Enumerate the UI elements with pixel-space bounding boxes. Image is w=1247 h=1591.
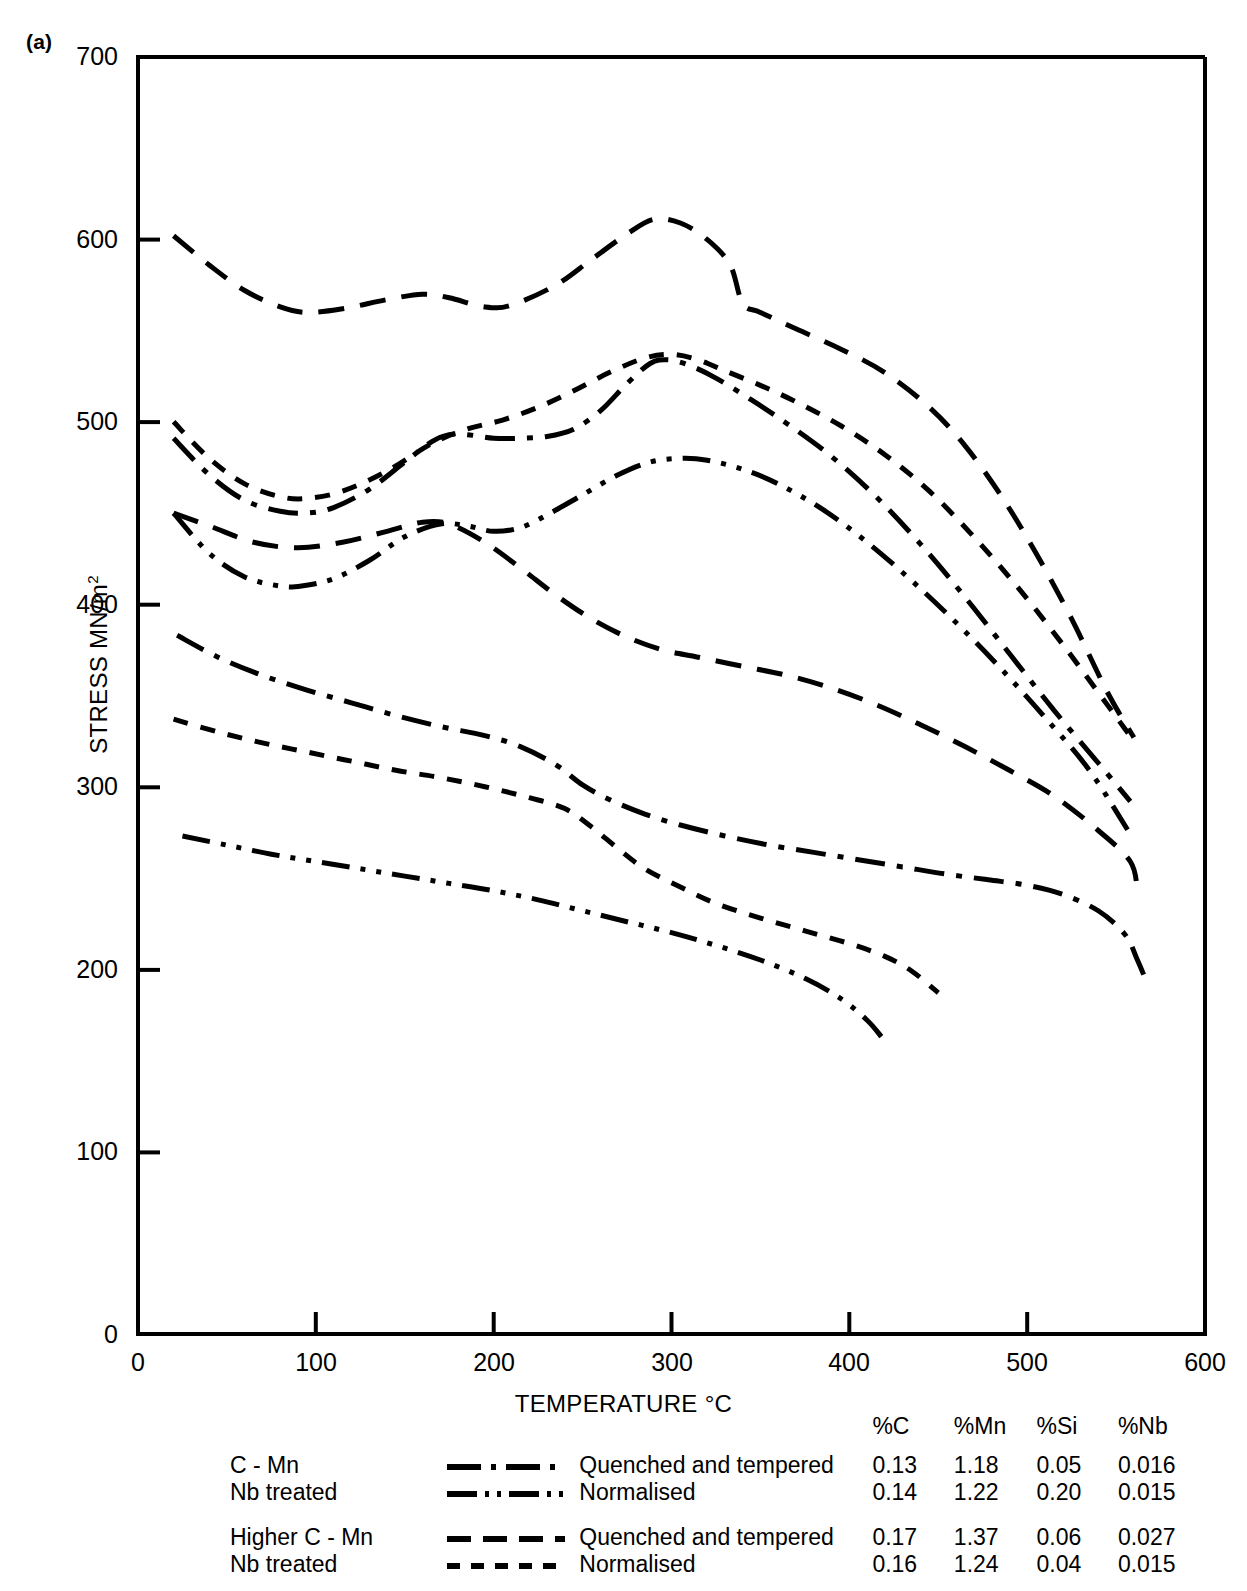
- legend-row[interactable]: Nb treated Normalised 0.16 1.24 0.04 0.0…: [230, 1551, 1220, 1578]
- legend-header-blank-1: [230, 1413, 447, 1452]
- curve-5: [177, 635, 1148, 985]
- legend-header-row: %C %Mn %Si %Nb: [230, 1413, 1220, 1452]
- data-curves: [174, 219, 1149, 1037]
- y-axis-title-exponent: 2: [84, 575, 101, 584]
- x-tick-label-0: 0: [98, 1348, 178, 1377]
- legend-row[interactable]: C - Mn Quenched and tempered 0.13 1.18 0…: [230, 1452, 1220, 1479]
- legend-line-style-dash-dot-dot: [447, 1488, 565, 1500]
- y-tick-label-500: 500: [46, 407, 118, 436]
- y-tick-label-0: 0: [46, 1320, 118, 1349]
- x-tick-label-500: 500: [987, 1348, 1067, 1377]
- legend-row[interactable]: Nb treated Normalised 0.14 1.22 0.20 0.0…: [230, 1479, 1220, 1506]
- legend-row-1-line-swatch: [447, 1479, 579, 1506]
- legend-line-style-long-dash: [447, 1533, 565, 1545]
- legend-row-1-pct-c: 0.14: [872, 1479, 953, 1506]
- x-tick-label-200: 200: [454, 1348, 534, 1377]
- y-axis-title: STRESS MN/m2: [84, 515, 113, 815]
- legend-row-3-line-swatch: [447, 1551, 579, 1578]
- legend-row-0-name: C - Mn: [230, 1452, 447, 1479]
- legend-row-0-pct-mn: 1.18: [954, 1452, 1037, 1479]
- legend-header-blank-2: [447, 1413, 579, 1452]
- curve-4: [174, 513, 1138, 891]
- legend-row-3-pct-nb: 0.015: [1118, 1551, 1220, 1578]
- y-tick-label-200: 200: [46, 955, 118, 984]
- y-tick-label-600: 600: [46, 225, 118, 254]
- legend-row-2-pct-nb: 0.027: [1118, 1524, 1220, 1551]
- legend-header-pct-si: %Si: [1036, 1413, 1117, 1452]
- legend: %C %Mn %Si %Nb C - Mn Quenched and tempe…: [230, 1413, 1220, 1578]
- legend-row-0-line-swatch: [447, 1452, 579, 1479]
- legend-row-2-pct-mn: 1.37: [954, 1524, 1037, 1551]
- y-tick-label-700: 700: [46, 42, 118, 71]
- legend-spacer-row: [230, 1506, 1220, 1524]
- legend-header-pct-mn: %Mn: [954, 1413, 1037, 1452]
- chart-page: (a) 700 600 500 40: [0, 0, 1247, 1591]
- legend-table: %C %Mn %Si %Nb C - Mn Quenched and tempe…: [230, 1413, 1220, 1578]
- y-axis-ticks: [138, 240, 160, 1153]
- y-tick-label-100: 100: [46, 1137, 118, 1166]
- x-tick-label-100: 100: [276, 1348, 356, 1377]
- legend-header-pct-c: %C: [872, 1413, 953, 1452]
- legend-row-0-pct-nb: 0.016: [1118, 1452, 1220, 1479]
- legend-row-1-condition: Normalised: [579, 1479, 872, 1506]
- legend-row-2-pct-c: 0.17: [872, 1524, 953, 1551]
- y-axis-title-text: STRESS MN/m: [85, 584, 112, 754]
- legend-row-2-line-swatch: [447, 1524, 579, 1551]
- legend-line-style-short-dash: [447, 1560, 565, 1572]
- legend-row-3-pct-si: 0.04: [1036, 1551, 1117, 1578]
- legend-header-pct-nb: %Nb: [1118, 1413, 1220, 1452]
- curve-7: [182, 836, 881, 1037]
- legend-row-1-pct-nb: 0.015: [1118, 1479, 1220, 1506]
- legend-row-1-pct-mn: 1.22: [954, 1479, 1037, 1506]
- legend-row-2-pct-si: 0.06: [1036, 1524, 1117, 1551]
- legend-row-1-pct-si: 0.20: [1036, 1479, 1117, 1506]
- x-tick-label-400: 400: [809, 1348, 889, 1377]
- legend-row-0-pct-c: 0.13: [872, 1452, 953, 1479]
- curve-2: [174, 360, 1131, 802]
- x-tick-label-300: 300: [632, 1348, 712, 1377]
- legend-row-1-name: Nb treated: [230, 1479, 447, 1506]
- legend-row-3-pct-mn: 1.24: [954, 1551, 1037, 1578]
- legend-row-0-condition: Quenched and tempered: [579, 1452, 872, 1479]
- x-tick-label-600: 600: [1165, 1348, 1245, 1377]
- legend-header-blank-3: [579, 1413, 872, 1452]
- legend-row-2-name: Higher C - Mn: [230, 1524, 447, 1551]
- x-axis-ticks: [316, 1312, 1027, 1334]
- legend-row-3-condition: Normalised: [579, 1551, 872, 1578]
- legend-line-style-dash-dot: [447, 1461, 565, 1473]
- legend-row[interactable]: Higher C - Mn Quenched and tempered 0.17…: [230, 1524, 1220, 1551]
- legend-row-3-pct-c: 0.16: [872, 1551, 953, 1578]
- legend-row-2-condition: Quenched and tempered: [579, 1524, 872, 1551]
- legend-row-0-pct-si: 0.05: [1036, 1452, 1117, 1479]
- legend-row-3-name: Nb treated: [230, 1551, 447, 1578]
